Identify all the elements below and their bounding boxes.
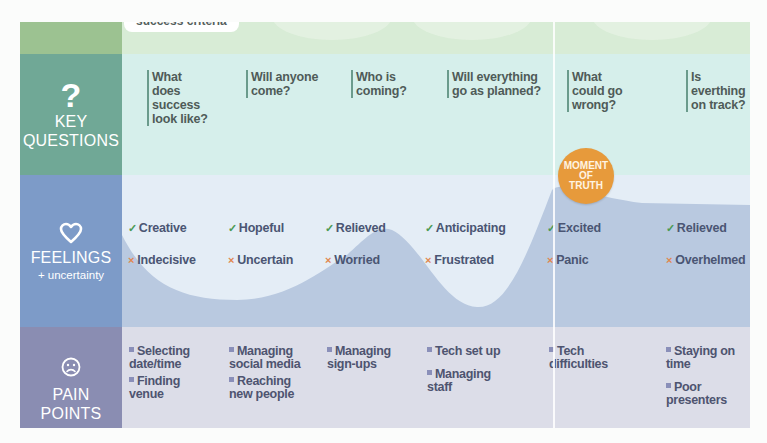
pain-points-label: PAIN POINTS [20, 327, 122, 428]
key-questions-content: What does success look like? Will anyone… [122, 54, 750, 175]
decorative-bump [592, 22, 712, 40]
success-criteria-content: success criteria [122, 22, 750, 54]
pain-item: Finding venue [129, 375, 209, 401]
feeling-positive: ✓Hopeful [228, 221, 284, 235]
pain-item: Managing social media [229, 345, 315, 371]
journey-map: success criteria ? KEY QUESTIONS What do… [20, 22, 750, 428]
decorative-bump [412, 22, 532, 40]
success-criteria-row: success criteria [20, 22, 750, 54]
success-criteria-pill: success criteria [124, 22, 239, 32]
pain-item: Reaching new people [229, 375, 315, 401]
key-questions-title-1: KEY [55, 112, 88, 131]
question-mark-icon: ? [61, 80, 82, 110]
key-questions-label: ? KEY QUESTIONS [20, 54, 122, 175]
feeling-positive: ✓Excited [547, 221, 601, 235]
feeling-positive: ✓Creative [128, 221, 187, 235]
feelings-label: FEELINGS + uncertainty [20, 175, 122, 327]
feeling-negative: ×Uncertain [228, 253, 293, 267]
heart-icon [59, 222, 83, 244]
feelings-subtitle: + uncertainty [38, 269, 104, 281]
mot-line-3: TRUTH [569, 181, 603, 191]
feeling-negative: ×Overhelmed [666, 253, 746, 267]
key-questions-title-2: QUESTIONS [23, 131, 119, 150]
pain-points-title-2: POINTS [41, 404, 102, 423]
sad-face-icon [61, 357, 81, 377]
emotion-curve [122, 175, 750, 327]
question-item: Is everthing on track? [686, 70, 750, 112]
pain-item: Managing sign-ups [327, 345, 403, 371]
question-item: What could go wrong? [567, 70, 628, 112]
stage-divider [553, 22, 555, 428]
feeling-positive: ✓Relieved [325, 221, 386, 235]
pain-item: Poor presenters [666, 381, 750, 407]
question-item: What does success look like? [147, 70, 212, 126]
pain-item: Tech difficulties [549, 345, 625, 371]
feeling-negative: ×Worried [325, 253, 380, 267]
feelings-title: FEELINGS [31, 248, 112, 267]
feeling-positive: ✓Relieved [666, 221, 727, 235]
pain-item: Tech set up [427, 345, 517, 358]
key-questions-row: ? KEY QUESTIONS What does success look l… [20, 54, 750, 175]
moment-of-truth-badge: MOMENT OF TRUTH [558, 148, 614, 204]
decorative-bump [272, 22, 392, 40]
pain-points-title-1: PAIN [53, 385, 90, 404]
pain-item: Staying on time [666, 345, 750, 371]
feelings-content: ✓Creative ✓Hopeful ✓Relieved ✓Anticipati… [122, 175, 750, 327]
success-criteria-label-cell [20, 22, 122, 54]
feeling-positive: ✓Anticipating [425, 221, 506, 235]
pain-points-row: PAIN POINTS Selecting date/time Finding … [20, 327, 750, 428]
question-item: Will everything go as planned? [447, 70, 542, 98]
pain-item: Selecting date/time [129, 345, 209, 371]
pain-item: Managing staff [427, 368, 503, 394]
question-item: Will anyone come? [246, 70, 329, 98]
question-item: Who is coming? [351, 70, 416, 98]
feeling-negative: ×Frustrated [425, 253, 494, 267]
feelings-row: FEELINGS + uncertainty ✓Creative ✓Hopefu… [20, 175, 750, 327]
pain-points-content: Selecting date/time Finding venue Managi… [122, 327, 750, 428]
feeling-negative: ×Indecisive [128, 253, 196, 267]
